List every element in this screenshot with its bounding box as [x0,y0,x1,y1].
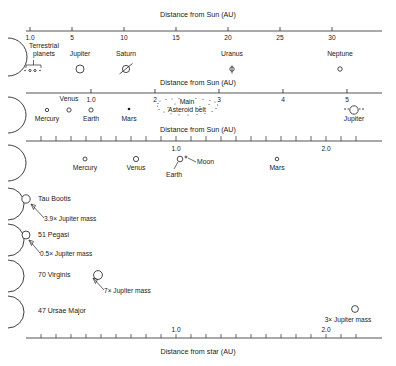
planet-marker-70-virginis [94,271,103,280]
panel1-body-jupiter: Jupiter [70,50,91,73]
sun-arc-panel1 [8,38,27,76]
planetary-distance-diagram: Distance from Sun (AU) 1.0 5 10 15 20 25… [0,0,396,366]
panel3-label-venus: Venus [127,164,146,171]
panel1-body-saturn: Saturn [116,50,136,74]
panel3-label-mars: Mars [269,164,285,171]
panel2-label-mars: Mars [121,115,137,122]
sun-arc-panel3 [8,145,26,181]
panel1-body-uranus: Uranus [221,50,244,74]
panel1-label-jupiter: Jupiter [70,50,91,58]
planet-mass-51-pegasi: 0.5× Jupiter mass [40,250,93,258]
panel3-marker-moon [185,156,187,158]
panel2-marker-mars [128,108,131,111]
planet-mass-70-virginis: 7× Jupiter mass [104,287,151,295]
star-arc-70-virginis [8,260,24,292]
panel2-axis-title: Distance from Sun (AU) [160,78,236,87]
system-47-ursae-major: 47 Ursae Major 3× Jupiter mass [8,296,372,328]
terrestrial-dot-venus [29,69,31,71]
panel-outer-solar-system: Distance from Sun (AU) 1.0 5 10 15 20 25… [8,10,382,76]
moon-leader-line [188,158,196,162]
panel1-axis-title: Distance from Sun (AU) [160,10,236,19]
panel2-label-mercury: Mercury [35,115,60,123]
panel3-marker-mercury [83,157,87,161]
panel1-label-neptune: Neptune [327,50,353,58]
panel2-body-earth: Earth [83,108,99,122]
panel1-marker-jupiter [76,65,84,73]
mass-leader-70-virginis [93,278,104,290]
panel3-label-mercury: Mercury [73,164,98,172]
mass-leader-51-pegasi [29,240,40,253]
bottom-axis: 1.0 2.0 Distance [26,326,382,356]
panel1-label-uranus: Uranus [221,50,244,57]
bottom-tick-label-2: 2.0 [321,326,330,333]
panel2-marker-venus [67,108,71,112]
panel3-body-venus: Venus [127,156,146,171]
panel2-body-mars: Mars [121,108,137,122]
panel3-marker-venus [133,156,138,161]
bottom-axis-title: Distance from star (AU) [160,347,235,356]
panel2-tick-label-2: 2 [153,96,157,103]
star-label-tau-bootis: Tau Bootis [38,195,71,202]
panel3-axis-title: Distance from Sun (AU) [160,125,236,134]
panel2-asteroid-belt: Main Asteroid belt [157,98,218,116]
system-70-virginis: 70 Virginis 7× Jupiter mass [8,260,151,295]
panel2-body-jupiter: Jupiter [344,106,365,123]
terrestrial-bracket [26,65,41,68]
planet-marker-51-pegasi [22,231,30,239]
star-arc-tau-bootis [8,188,24,220]
panel2-tick-label-3: 3 [217,96,221,103]
planet-marker-tau-bootis [22,195,30,203]
terrestrial-dot-mercury [24,70,26,72]
terrestrial-dot-earth [34,69,36,71]
terrestrial-planets-label-line2: planets [33,50,56,58]
bottom-axis-tick-labels: 1.0 2.0 [171,326,330,333]
panel1-tick-labels: 1.0 5 10 15 20 25 30 [25,34,336,41]
star-label-51-pegasi: 51 Pegasi [38,231,70,239]
panel3-label-moon: Moon [197,158,214,165]
panel1-tick-label-5: 20 [224,34,232,41]
panel2-label-earth: Earth [83,115,99,122]
asteroid-belt-label-line2: Asteroid belt [168,106,206,113]
earth-leader-line [174,162,178,169]
panel2-tick-labels: 1.0 2 3 4 5 [86,96,349,103]
star-label-70-virginis: 70 Virginis [38,271,71,279]
planet-marker-47-ursae-major [352,306,359,313]
panel2-tick-label-1: 1.0 [86,96,95,103]
panel3-marker-mars [275,157,279,161]
panel2-body-venus: Venus [60,95,79,112]
panel3-tick-label-2: 2.0 [321,145,330,152]
system-51-pegasi: 51 Pegasi 0.5× Jupiter mass [8,224,93,258]
panel1-tick-label-1: 1.0 [25,34,34,41]
panel1-tick-label-2: 5 [70,34,74,41]
planet-mass-tau-bootis: 3.9× Jupiter mass [44,215,97,223]
panel1-tick-label-4: 15 [172,34,180,41]
panel2-label-jupiter: Jupiter [344,115,365,123]
panel3-marker-earth [177,156,183,162]
star-arc-47-ursae-major [8,296,24,328]
panel1-ticks [30,27,332,31]
panel-earth-neighborhood: Distance from Sun (AU) [8,125,382,181]
panel3-tick-labels: 1.0 2.0 [171,145,330,152]
bottom-axis-ticks [41,334,356,338]
asteroid-belt-label-line1: Main [180,98,195,105]
panel2-tick-label-4: 4 [281,96,285,103]
terrestrial-planets-group: Terrestrial planets [24,42,59,72]
panel3-body-mercury: Mercury [73,157,98,172]
panel2-marker-jupiter [350,106,358,114]
star-arc-51-pegasi [8,224,24,256]
panel2-marker-earth [89,108,93,112]
panel3-ticks [41,136,356,141]
planet-mass-47-ursae-major: 3× Jupiter mass [325,316,372,324]
panel1-label-saturn: Saturn [116,50,136,57]
panel3-tick-label-1: 1.0 [171,145,180,152]
panel2-label-venus: Venus [60,95,79,102]
panel2-marker-mercury [45,108,48,111]
panel3-label-earth: Earth [166,171,182,178]
bottom-tick-label-1: 1.0 [171,326,180,333]
panel3-body-moon: Moon [185,156,214,165]
panel1-tick-label-6: 25 [276,34,284,41]
panel1-marker-neptune [338,67,342,71]
panel3-body-earth: Earth [166,156,183,178]
terrestrial-dot-mars [39,70,41,72]
panel2-ticks [91,89,347,93]
